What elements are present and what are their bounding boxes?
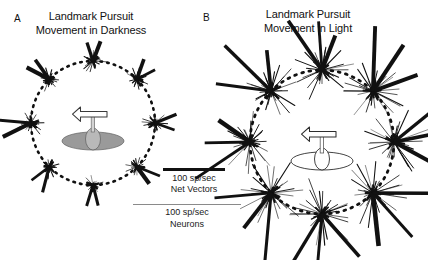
panel-title-a: Landmark Pursuit Movement in Darkness [16,10,166,37]
vector-burst [32,159,59,192]
vector-burst [142,114,176,133]
vector-burst [86,176,103,207]
vector-burst [214,163,302,260]
net-vector-ray [322,214,359,257]
net-vector-ray [3,123,31,137]
figure-canvas: A Landmark Pursuit Movement in Darkness … [0,0,428,260]
neuron-ray [350,78,373,91]
scale-bar-thick-line [163,168,225,171]
burst-core-ray [93,183,94,185]
vector-burst [288,21,353,99]
net-vector-ray [373,26,375,91]
net-vector-ray [225,45,271,91]
vector-burst [287,179,359,260]
vector-burst [352,162,428,246]
net-vector-ray [195,142,250,179]
panel-b-center-rat-icon [291,127,353,170]
panel-label-b: B [203,12,210,23]
burst-core-ray [31,121,38,123]
net-vector-ray [205,142,250,143]
net-vector-ray [155,114,176,123]
vector-burst [84,41,106,71]
panel-b-vector-bursts [195,21,428,260]
vector-burst [216,45,296,114]
neuron-ray [373,175,399,193]
net-vector-ray [373,193,379,246]
net-vector-ray [394,142,428,167]
neuron-ray [370,142,394,143]
vector-burst [0,111,44,137]
net-vector-ray [267,50,271,91]
net-vector-ray [0,120,31,123]
panel-a-center-rat-icon [62,107,124,150]
net-vector-ray [287,214,322,260]
burst-core-ray [372,91,373,95]
panel-b-vector-plot [222,30,428,256]
vector-burst [365,109,428,171]
